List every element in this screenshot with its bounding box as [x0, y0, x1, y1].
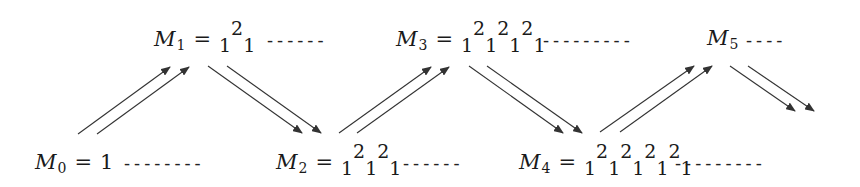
bottom-row: 1 1 1 1 — [461, 37, 548, 54]
arrow-m4-m5-b — [620, 66, 712, 132]
node-subscript: 0 — [58, 160, 67, 176]
node-m5: M5 — [707, 26, 738, 50]
equals-sign: = — [558, 150, 576, 174]
equals-sign: = — [74, 150, 92, 174]
node-subscript: 2 — [299, 160, 308, 176]
arrow-m1-m2-a — [208, 66, 302, 133]
node-m0: M0 = 1 — [35, 150, 113, 174]
bottom-row: 1 1 1 — [341, 160, 404, 177]
dashes-m5: ---- — [746, 30, 786, 51]
arrow-m1-m2-b — [227, 66, 321, 133]
dashes-m0: -------- — [124, 153, 205, 174]
dashes-m4: --------- — [675, 153, 766, 174]
node-label: M — [35, 150, 57, 174]
node-subscript: 3 — [419, 37, 428, 53]
node-m4: M4 = 2 2 2 2 1 1 1 1 1 — [519, 145, 696, 179]
dashes-m2: ------ — [403, 153, 464, 174]
dashes-m1: ------ — [267, 30, 328, 51]
young-diagram: 2 2 1 1 1 — [341, 143, 404, 177]
arrow-m2-m3-a — [339, 67, 431, 133]
node-subscript: 4 — [542, 160, 551, 176]
equals-sign: = — [315, 150, 333, 174]
young-diagram: 2 1 1 — [219, 20, 258, 54]
node-value: 1 — [100, 150, 113, 174]
node-label: M — [707, 26, 729, 50]
bottom-row: 1 1 — [219, 37, 258, 54]
equals-sign: = — [193, 27, 211, 51]
node-subscript: 1 — [177, 37, 186, 53]
equals-sign: = — [435, 27, 453, 51]
arrow-m0-m1-b — [97, 67, 189, 134]
dashes-m3: --------- — [543, 30, 634, 51]
arrow-m2-m3-b — [357, 67, 449, 133]
node-label: M — [276, 150, 298, 174]
node-subscript: 5 — [730, 36, 739, 52]
young-diagram: 2 2 2 1 1 1 1 — [461, 20, 548, 54]
arrow-m0-m1-a — [78, 67, 170, 134]
arrow-m4-m5-a — [600, 66, 694, 132]
arrow-m3-m4-a — [469, 66, 563, 133]
node-label: M — [154, 27, 176, 51]
node-label: M — [396, 27, 418, 51]
node-m2: M2 = 2 2 1 1 1 — [276, 145, 404, 179]
node-label: M — [519, 150, 541, 174]
node-m1: M1 = 2 1 1 — [154, 22, 258, 56]
arrow-m3-m4-b — [487, 66, 582, 133]
bratteli-diagram: M1 = 2 1 1 ------ M3 = 2 2 2 1 1 1 1 ---… — [0, 0, 860, 187]
node-m3: M3 = 2 2 2 1 1 1 1 — [396, 22, 549, 56]
arrow-m5-next-b — [748, 66, 814, 111]
arrow-m5-next-a — [730, 66, 795, 111]
